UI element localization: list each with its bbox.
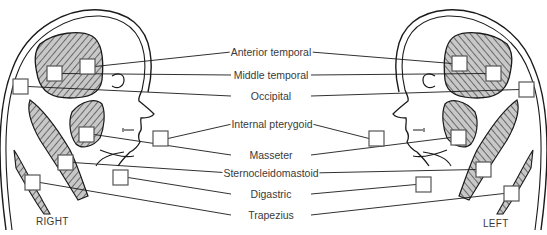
left-mouth (413, 128, 424, 132)
right-leader-internal-pterygoid (168, 124, 232, 139)
right-box-occipital[interactable] (13, 79, 28, 94)
right-leader-digastric (128, 178, 231, 195)
label-internal-pterygoid: Internal pterygoid (230, 118, 313, 130)
right-box-middle-temporal[interactable] (47, 66, 62, 81)
left-eye (423, 74, 435, 88)
label-trapezius: Trapezius (247, 209, 295, 221)
label-anterior-temporal: Anterior temporal (230, 46, 313, 58)
left-box-sternocleidomastoid[interactable] (476, 162, 491, 177)
left-box-occipital[interactable] (519, 82, 534, 97)
left-box-masseter[interactable] (451, 130, 466, 145)
left-jaw-line (413, 150, 451, 166)
left-leader-trapezius (311, 194, 504, 216)
right-side-label: RIGHT (36, 216, 69, 227)
right-box-anterior-temporal[interactable] (80, 59, 95, 74)
left-leader-anterior-temporal (311, 52, 452, 64)
left-leader-internal-pterygoid (312, 124, 369, 139)
right-box-trapezius[interactable] (25, 175, 40, 190)
right-box-internal-pterygoid[interactable] (153, 131, 168, 146)
right-leader-trapezius (40, 183, 231, 216)
label-masseter: Masseter (248, 149, 293, 161)
left-box-trapezius[interactable] (504, 186, 519, 201)
label-occipital: Occipital (250, 90, 292, 102)
right-jaw-line (96, 150, 134, 166)
left-side-label: LEFT (483, 218, 509, 229)
right-box-sternocleidomastoid[interactable] (58, 155, 73, 170)
right-head-figure (0, 10, 154, 230)
left-box-middle-temporal[interactable] (486, 66, 501, 81)
right-mouth (123, 128, 134, 132)
label-sternocleidomastoid: Sternocleidomastoid (222, 167, 319, 179)
left-box-digastric[interactable] (416, 177, 431, 192)
label-digastric: Digastric (250, 188, 293, 200)
left-trapezius-muscle (497, 150, 533, 214)
right-box-masseter[interactable] (79, 127, 94, 142)
label-middle-temporal: Middle temporal (233, 69, 310, 81)
right-leader-anterior-temporal (95, 52, 231, 67)
right-box-digastric[interactable] (113, 170, 128, 185)
left-leader-sternocleidomastoid (311, 170, 476, 174)
left-leader-digastric (311, 185, 416, 195)
left-box-anterior-temporal[interactable] (452, 56, 467, 71)
right-leader-sternocleidomastoid (73, 163, 231, 174)
left-box-internal-pterygoid[interactable] (369, 131, 384, 146)
right-eye (112, 74, 124, 88)
